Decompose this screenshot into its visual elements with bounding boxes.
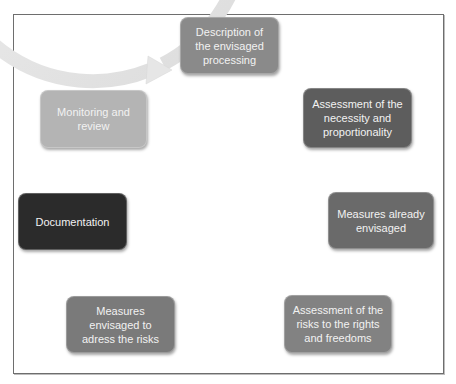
node-measures-address-risks: Measures envisaged to adress the risks: [66, 296, 175, 353]
node-necessity-proportionality: Assessment of the necessity and proporti…: [303, 88, 412, 148]
node-label: Measures envisaged to adress the risks: [73, 304, 168, 346]
node-documentation: Documentation: [18, 193, 127, 250]
node-description: Description of the envisaged processing: [180, 17, 279, 74]
node-label: Monitoring and review: [47, 105, 140, 133]
node-label: Assessment of the necessity and proporti…: [310, 97, 405, 139]
node-label: Documentation: [36, 215, 110, 229]
node-label: Assessment of the risks to the rights an…: [291, 303, 385, 345]
node-monitoring-review: Monitoring and review: [40, 90, 147, 148]
node-label: Measures already envisaged: [335, 207, 427, 235]
node-risk-assessment: Assessment of the risks to the rights an…: [284, 295, 392, 353]
node-measures-already-envisaged: Measures already envisaged: [328, 192, 434, 249]
node-label: Description of the envisaged processing: [187, 25, 272, 67]
